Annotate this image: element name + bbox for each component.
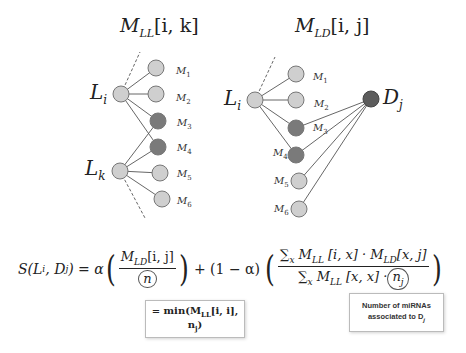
node-dj: [363, 91, 379, 107]
term2-fraction: ∑x MLL [i, x] · MLD[x, j] ∑x MLL [x, x] …: [278, 247, 429, 290]
node-m2: [148, 86, 164, 102]
node-m1: [288, 66, 304, 82]
node-li: [113, 86, 129, 102]
score-formula: S(Li, Dj) = α ( MLD[i, j] n ) + (1 − α) …: [18, 247, 444, 290]
node-m5: [291, 173, 307, 189]
left-graph-title: MLL[i, k]: [120, 14, 199, 40]
node-m6: [291, 201, 307, 217]
node-li: [247, 92, 263, 108]
right-nodes: [247, 66, 379, 217]
nj-circled: nj: [387, 268, 408, 291]
node-m1: [148, 60, 164, 76]
label-m1-right: M1: [313, 71, 328, 85]
label-m4-left: M4: [177, 142, 192, 156]
node-m4: [288, 147, 304, 163]
label-lk-left: Lk: [85, 156, 106, 183]
label-m6-right: M6: [274, 203, 289, 217]
label-li-left: Li: [90, 80, 107, 107]
left-graph: [120, 52, 162, 218]
n-circled: n: [138, 270, 156, 288]
node-m3: [288, 120, 304, 136]
label-m3-left: M3: [177, 117, 192, 131]
label-m5-left: M5: [177, 168, 192, 182]
node-lk: [112, 163, 128, 179]
node-m6: [154, 191, 170, 207]
label-m4-right: M4: [273, 147, 288, 161]
label-m6-left: M6: [177, 195, 192, 209]
node-m4: [150, 139, 166, 155]
label-m2-right: M2: [314, 98, 329, 112]
node-m2: [288, 92, 304, 108]
label-m3-right: M3: [313, 122, 328, 136]
label-li-right: Li: [224, 86, 241, 113]
label-dj: Dj: [383, 85, 403, 112]
label-m5-right: M5: [274, 175, 289, 189]
min-annotation-box: = min(MLL[i, i], nj): [145, 300, 245, 338]
term1-fraction: MLD[i, j] n: [119, 249, 176, 288]
node-m5: [152, 165, 168, 181]
right-graph-title: MLD[i, j]: [295, 14, 369, 40]
label-m2-left: M2: [176, 92, 191, 106]
node-m3: [150, 113, 166, 129]
label-m1-left: M1: [176, 65, 191, 79]
nj-annotation-box: Number of miRNAs associated to Dj: [349, 293, 444, 332]
